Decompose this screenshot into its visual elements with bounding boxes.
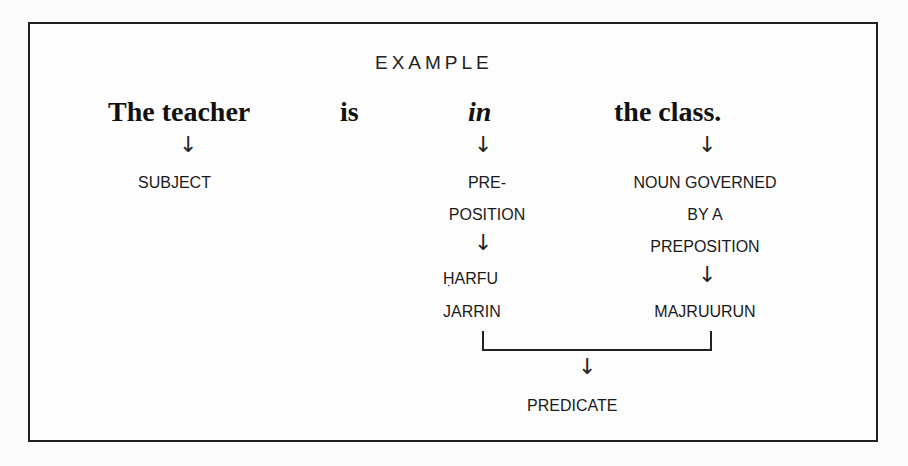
- arrow-down-icon: ↓: [698, 264, 716, 286]
- diagram-title: EXAMPLE: [375, 52, 493, 74]
- arrow-down-icon: ↓: [474, 134, 492, 156]
- label-majruurun: MAJRUURUN: [600, 303, 810, 321]
- label-predicate: PREDICATE: [527, 397, 617, 415]
- arrow-down-icon: ↓: [698, 134, 716, 156]
- label-noun-governed: NOUN GOVERNED: [600, 174, 810, 192]
- arrow-down-icon: ↓: [179, 134, 197, 156]
- label-jarrin: JARRIN: [443, 303, 501, 321]
- word-in: in: [468, 96, 491, 128]
- label-harfu: ḤARFU: [443, 270, 498, 288]
- arrow-down-icon: ↓: [474, 232, 492, 254]
- arrow-down-icon: ↓: [578, 356, 596, 378]
- label-preposition: PREPOSITION: [600, 238, 810, 256]
- word-is: is: [340, 96, 359, 128]
- label-by-a: BY A: [600, 206, 810, 224]
- word-the-class: the class.: [614, 96, 721, 128]
- label-pre: PRE-: [457, 174, 517, 192]
- label-position: POSITION: [437, 206, 537, 224]
- label-subject: SUBJECT: [138, 174, 211, 192]
- word-the-teacher: The teacher: [108, 96, 250, 128]
- join-bracket: [482, 331, 712, 351]
- diagram-frame: [28, 22, 878, 442]
